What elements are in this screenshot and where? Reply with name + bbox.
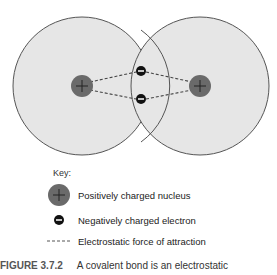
nucleus-icon — [40, 183, 78, 207]
electron-icon — [40, 214, 78, 226]
key-label: Negatively charged electron — [78, 215, 196, 226]
caption-text: A covalent bond is an electrostatic — [77, 260, 228, 271]
right-nucleus — [189, 75, 211, 97]
dashed-line-icon — [40, 238, 78, 244]
key-item-attraction: Electrostatic force of attraction — [40, 233, 206, 249]
electron-bottom — [136, 94, 146, 104]
figure-number: FIGURE 3.7.2 — [0, 260, 63, 271]
key-label: Electrostatic force of attraction — [78, 236, 206, 247]
covalent-bond-diagram — [0, 0, 277, 160]
key-item-nucleus: Positively charged nucleus — [40, 187, 190, 203]
key-label: Positively charged nucleus — [78, 190, 190, 201]
figure-caption: FIGURE 3.7.2A covalent bond is an electr… — [0, 260, 228, 271]
left-nucleus — [71, 75, 93, 97]
electron-top — [136, 66, 146, 76]
key-item-electron: Negatively charged electron — [40, 212, 196, 228]
key-title: Key: — [53, 168, 71, 178]
